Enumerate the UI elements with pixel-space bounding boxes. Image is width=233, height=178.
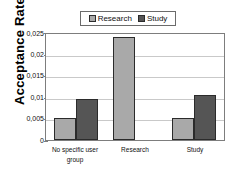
- x-label-study: Study: [165, 145, 225, 175]
- plot-area: [45, 33, 225, 141]
- y-tick-label-0025: 0,025: [18, 30, 44, 37]
- bar-research-study: [172, 118, 194, 140]
- y-tick-label-0005: 0,005: [18, 115, 44, 122]
- bar-study-study: [194, 95, 216, 140]
- y-tick-label-0015: 0,015: [18, 72, 44, 79]
- bar-group-research: [105, 34, 164, 140]
- x-label-line-1: Research: [105, 145, 165, 155]
- x-label-line-1: No specific user: [45, 145, 105, 155]
- bar-group-study: [165, 34, 224, 140]
- chart-legend: Research Study: [80, 11, 176, 26]
- bar-study-no-specific-user-group: [76, 99, 98, 140]
- x-label-no-specific-user-group: No specific user group: [45, 145, 105, 175]
- bar-research-research: [113, 37, 135, 140]
- legend-label-research: Research: [98, 14, 132, 23]
- y-tick-label-0: 0: [18, 137, 44, 144]
- bar-chart-figure: Research Study Acceptance Rate 0,025 0,0…: [0, 0, 233, 178]
- y-tick-label-002: 0,02: [18, 51, 44, 58]
- x-axis-labels: No specific user group Research Study: [45, 145, 225, 175]
- x-label-line-1: Study: [165, 145, 225, 155]
- legend-label-study: Study: [147, 14, 167, 23]
- y-tick-label-001: 0,01: [18, 94, 44, 101]
- bar-group-no-specific-user-group: [46, 34, 105, 140]
- bar-research-no-specific-user-group: [54, 118, 76, 140]
- legend-swatch-research-icon: [89, 15, 96, 22]
- legend-entry-study: Study: [138, 14, 167, 23]
- y-tick-mark-0: [44, 141, 48, 142]
- bar-series-container: [46, 34, 224, 140]
- legend-entry-research: Research: [89, 14, 132, 23]
- x-label-research: Research: [105, 145, 165, 175]
- x-label-line-2: group: [45, 155, 105, 165]
- y-axis-ticks: 0,025 0,02 0,015 0,01 0,005 0: [14, 33, 44, 141]
- legend-swatch-study-icon: [138, 15, 145, 22]
